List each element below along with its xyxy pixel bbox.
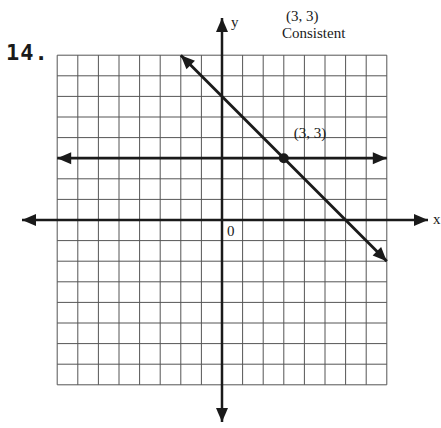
x-axis-arrow-icon: [22, 214, 36, 226]
y-axis-arrow-icon: [216, 408, 228, 422]
line-arrow-icon: [57, 152, 71, 164]
y-axis-arrow-icon: [216, 18, 228, 32]
coordinate-plane: xy0(3, 3): [0, 0, 441, 428]
x-axis-label: x: [433, 211, 441, 227]
intersection-label: (3, 3): [294, 125, 327, 142]
origin-label: 0: [227, 223, 235, 239]
y-axis-label: y: [231, 14, 239, 30]
line-arrow-icon: [373, 152, 387, 164]
intersection-point: [279, 153, 289, 163]
x-axis-arrow-icon: [414, 214, 428, 226]
